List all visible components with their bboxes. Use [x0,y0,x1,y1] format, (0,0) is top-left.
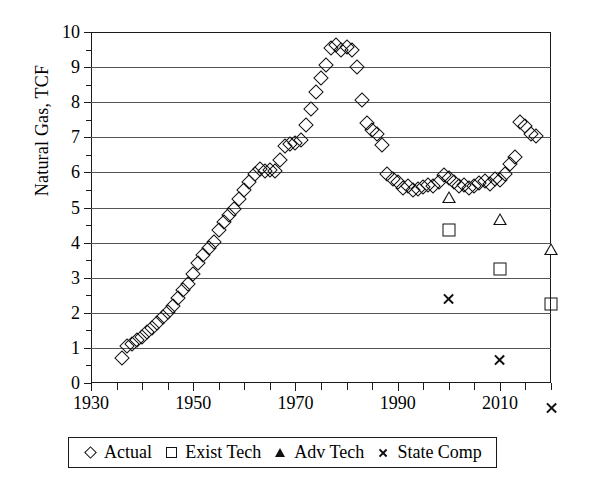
data-point-square [493,262,506,275]
legend-item-label: Exist Tech [185,442,261,463]
x-tick-minor [551,383,552,390]
x-tick-minor [423,383,424,390]
x-tick-major [193,383,194,391]
x-tick-minor [525,383,526,390]
y-tick-label: 4 [71,234,80,252]
data-point-triangle [493,213,507,225]
y-tick-major [84,278,91,279]
gridline [91,137,551,138]
gridline [91,278,551,279]
x-tick-minor [244,383,245,390]
gridline [91,243,551,244]
x-tick-minor [142,383,143,390]
legend-item-label: Actual [104,442,152,463]
y-tick-minor [86,155,91,156]
y-tick-label: 8 [71,93,80,111]
y-tick-major [84,102,91,103]
y-tick-major [84,208,91,209]
x-tick-major [398,383,399,391]
y-tick-major [84,348,91,349]
y-tick-minor [86,120,91,121]
y-tick-label: 9 [71,58,80,76]
x-tick-label: 1990 [380,394,416,412]
y-tick-minor [86,85,91,86]
y-tick-label: 3 [71,269,80,287]
y-tick-label: 6 [71,163,80,181]
y-tick-minor [86,330,91,331]
x-tick-minor [219,383,220,390]
x-tick-minor [168,383,169,390]
x-tick-minor [449,383,450,390]
data-point-triangle [442,191,456,203]
x-tick-label: 1930 [73,394,109,412]
y-axis-title: Natural Gas, TCF [32,21,53,241]
x-tick-minor [270,383,271,390]
y-tick-minor [86,260,91,261]
x-tick-label: 1970 [277,394,313,412]
gridline [91,348,551,349]
x-tick-label: 1950 [175,394,211,412]
diamond-icon [83,446,97,460]
x-tick-minor [372,383,373,390]
y-tick-label: 10 [62,23,80,41]
y-tick-minor [86,190,91,191]
x-tick-major [91,383,92,391]
data-point-x [545,402,558,415]
legend-item[interactable]: Exist Tech [164,442,261,463]
data-point-square [545,298,558,311]
y-tick-major [84,32,91,33]
x-tick-minor [474,383,475,390]
y-tick-label: 2 [71,304,80,322]
y-tick-major [84,313,91,314]
x-tick-major [500,383,501,391]
data-point-triangle [544,243,558,255]
chart-figure: Natural Gas, TCF 012345678910 1930195019… [0,0,596,479]
legend-item[interactable]: Adv Tech [273,442,364,463]
chart-legend: Actual Exist Tech Adv Tech State Comp [68,437,497,468]
y-tick-minor [86,50,91,51]
plot-area: 012345678910 19301950197019902010 [91,32,551,383]
y-tick-label: 5 [71,199,80,217]
gridline [91,172,551,173]
gridline [91,102,551,103]
y-tick-label: 1 [71,339,80,357]
y-tick-major [84,243,91,244]
y-tick-major [84,137,91,138]
data-point-x [442,292,455,305]
x-tick-major [295,383,296,391]
y-tick-major [84,172,91,173]
legend-item[interactable]: Actual [83,442,152,463]
x-icon [376,446,390,460]
y-tick-minor [86,295,91,296]
data-point-square [442,224,455,237]
y-tick-major [84,383,91,384]
x-tick-minor [347,383,348,390]
y-tick-minor [86,365,91,366]
x-tick-minor [321,383,322,390]
legend-item-label: State Comp [397,442,482,463]
y-tick-label: 0 [71,374,80,392]
legend-item[interactable]: State Comp [376,442,482,463]
x-tick-minor [117,383,118,390]
y-tick-major [84,67,91,68]
legend-item-label: Adv Tech [294,442,364,463]
triangle-icon [273,446,287,460]
y-tick-minor [86,225,91,226]
y-tick-label: 7 [71,128,80,146]
gridline [91,208,551,209]
square-icon [164,446,178,460]
x-tick-label: 2010 [482,394,518,412]
data-point-x [493,354,506,367]
